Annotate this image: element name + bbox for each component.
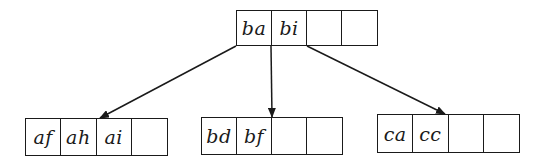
key-cell: ca [378, 115, 413, 152]
key-cell: cc [413, 115, 448, 152]
empty-key-cell [484, 115, 519, 152]
key-cell: ah [61, 119, 96, 155]
leaf-node-1: bd bf [201, 117, 343, 155]
b-tree-diagram: ba bi af ah ai bd bf ca cc [0, 0, 545, 162]
key-cell: ai [97, 119, 132, 155]
empty-key-cell [307, 11, 342, 45]
key-cell: bi [272, 11, 307, 45]
edge-root-to-child-0 [100, 46, 236, 118]
empty-key-cell [449, 115, 484, 152]
edge-root-to-child-1 [271, 46, 272, 117]
leaf-node-0: af ah ai [25, 118, 168, 156]
key-cell: ba [237, 11, 272, 45]
empty-key-cell [132, 119, 167, 155]
leaf-node-2: ca cc [377, 114, 520, 153]
empty-key-cell [272, 118, 307, 154]
empty-key-cell [307, 118, 342, 154]
key-cell: bd [202, 118, 237, 154]
root-node: ba bi [236, 10, 378, 46]
key-cell: af [26, 119, 61, 155]
edge-root-to-child-2 [307, 46, 445, 114]
key-cell: bf [237, 118, 272, 154]
empty-key-cell [342, 11, 377, 45]
